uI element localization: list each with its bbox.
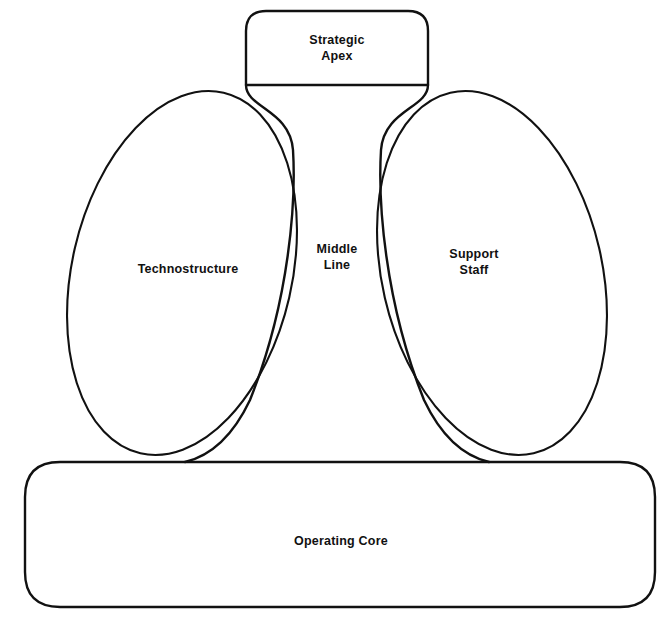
- support-staff-label: Support Staff: [449, 246, 498, 278]
- technostructure-label: Technostructure: [138, 261, 239, 277]
- operating-core-label: Operating Core: [294, 533, 388, 549]
- middle-line-label: Middle Line: [317, 241, 358, 273]
- strategic-apex-label: Strategic Apex: [309, 32, 364, 64]
- organizational-structure-diagram: Strategic Apex Technostructure Middle Li…: [0, 0, 672, 632]
